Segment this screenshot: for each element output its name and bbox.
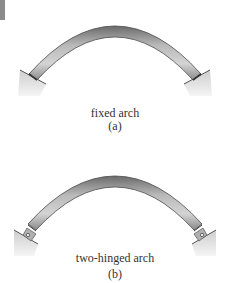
arch-body: [29, 26, 201, 80]
two-hinged-arch-label: (b): [0, 268, 230, 281]
arch-diagrams: [0, 0, 230, 283]
two-hinged-arch-caption: two-hinged arch: [0, 252, 230, 265]
fixed-arch-label: (a): [0, 120, 230, 133]
fixed-arch-figure: [18, 26, 212, 96]
two-hinged-arch-figure: [14, 176, 216, 256]
arch-body: [28, 176, 202, 230]
